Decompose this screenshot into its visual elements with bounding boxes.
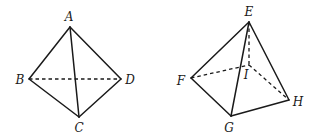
vertex-label-b: B	[15, 73, 25, 87]
vertex-label-i: I	[243, 68, 249, 82]
solid-edge-ad	[70, 27, 121, 79]
solid-edge-cd	[79, 79, 121, 117]
solid-edge-eh	[249, 22, 289, 100]
vertex-label-f: F	[176, 74, 186, 88]
vertex-label-e: E	[244, 5, 254, 19]
solid-edge-bc	[29, 79, 79, 117]
solid-edge-ac	[70, 27, 79, 117]
pyramid-efghi: EFGHI	[176, 5, 304, 135]
tetrahedron-abcd: ABCD	[15, 10, 136, 135]
vertex-label-h: H	[292, 95, 304, 109]
solid-edge-fg	[191, 78, 231, 116]
vertex-label-g: G	[224, 121, 234, 135]
vertex-label-a: A	[64, 10, 74, 24]
vertex-label-c: C	[74, 121, 83, 135]
solid-edge-gh	[231, 100, 289, 116]
vertex-label-d: D	[124, 73, 135, 87]
solid-edge-ab	[29, 27, 70, 79]
dashed-edge-ih	[249, 65, 289, 100]
geometry-diagram: ABCD EFGHI	[0, 0, 318, 136]
